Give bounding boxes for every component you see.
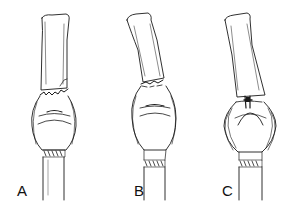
- line-drawing: [0, 0, 298, 206]
- panel-label-c: C: [222, 183, 233, 198]
- panel-a-drawing: [32, 14, 76, 200]
- panel-label-b: B: [134, 183, 144, 198]
- panel-label-a: A: [17, 183, 27, 198]
- panel-c-drawing: [224, 13, 276, 200]
- panel-b-drawing: [127, 13, 176, 200]
- joint-fracture-illustration: A B C: [0, 0, 298, 206]
